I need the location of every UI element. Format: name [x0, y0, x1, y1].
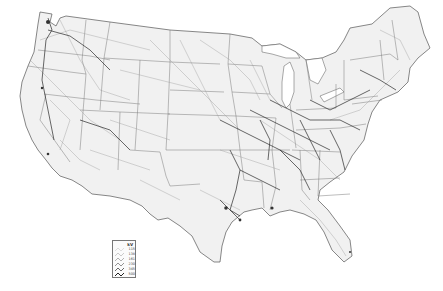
legend-label: 345	[129, 267, 135, 271]
legend-item-500: 500	[115, 272, 135, 277]
legend-label: 115	[129, 247, 135, 251]
legend-label: 230	[129, 262, 135, 266]
legend-label: 138	[129, 252, 135, 256]
line-swatch-icon	[115, 272, 125, 277]
legend-label: 161	[129, 257, 135, 261]
transmission-map	[0, 0, 443, 291]
voltage-legend: kV 115 138 161 230 345 500	[112, 240, 136, 278]
legend-label: 500	[129, 272, 135, 276]
